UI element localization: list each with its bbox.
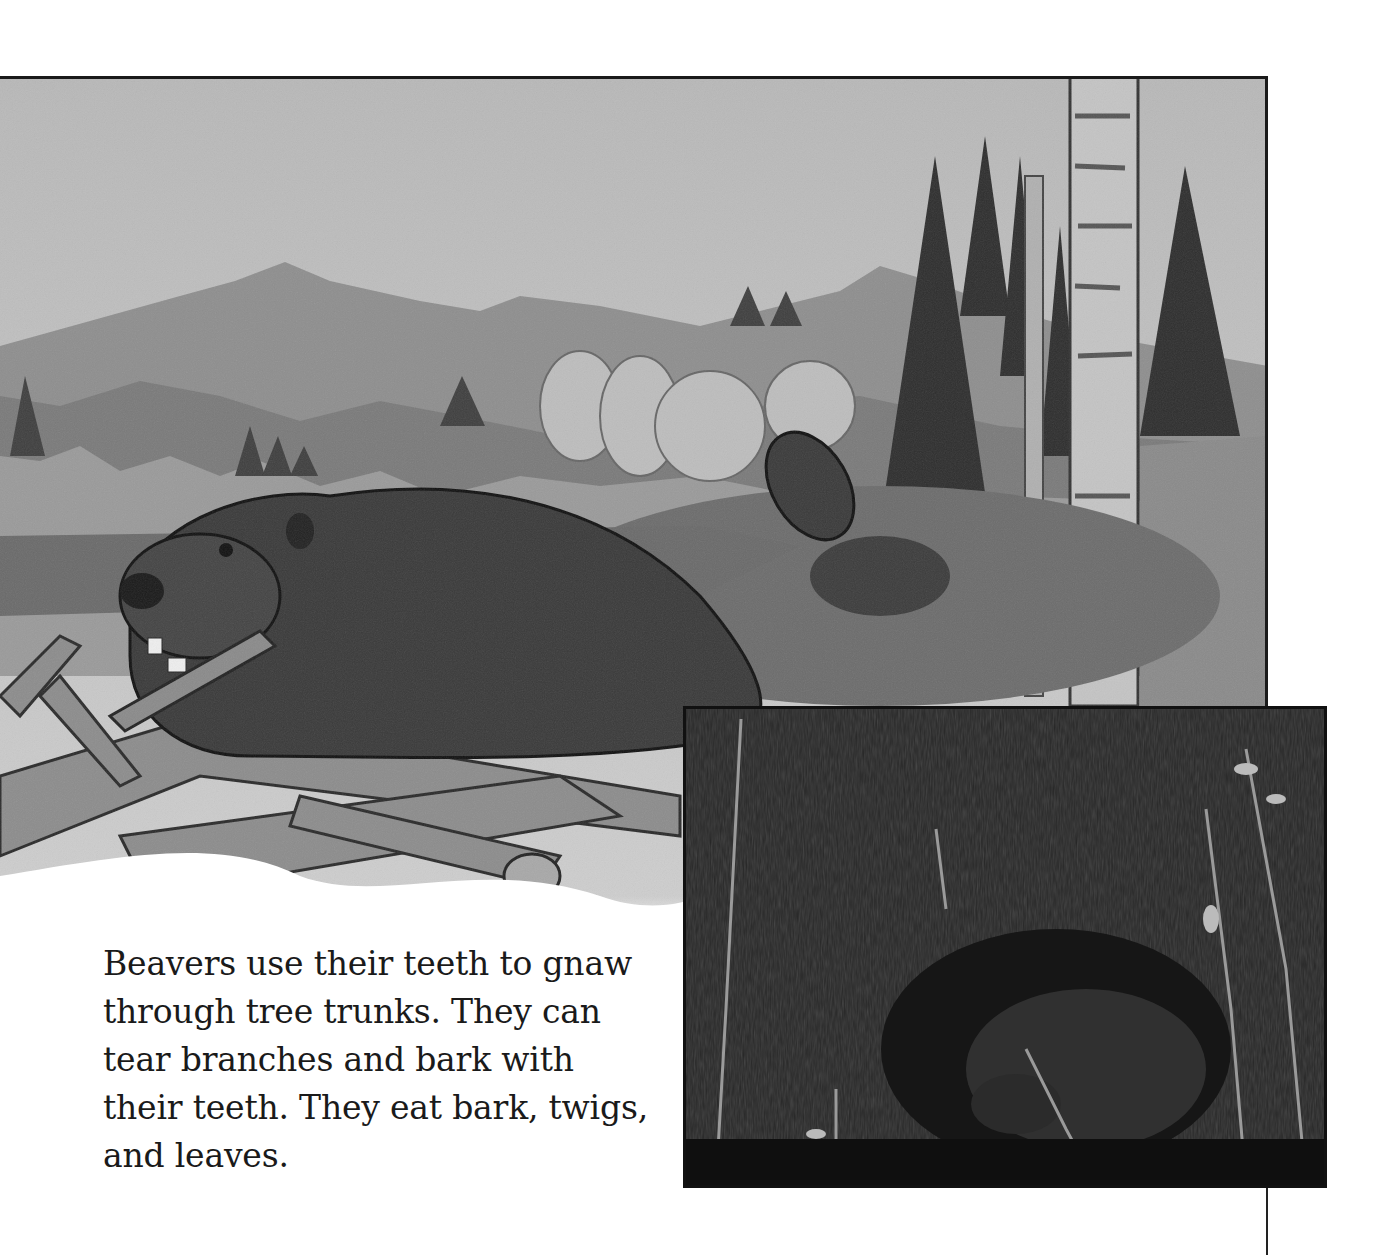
illustration-right-border bbox=[1265, 76, 1268, 706]
body-text-line: through tree trunks. They can bbox=[103, 988, 673, 1036]
beaver-photo bbox=[683, 706, 1327, 1188]
vertical-rule bbox=[1266, 1188, 1268, 1255]
book-page: Beavers use their teeth to gnaw through … bbox=[0, 0, 1396, 1255]
body-text-line: and leaves. bbox=[103, 1132, 673, 1180]
body-text-line: tear branches and bark with bbox=[103, 1036, 673, 1084]
body-text-line: their teeth. They eat bark, twigs, bbox=[103, 1084, 673, 1132]
body-text-line: Beavers use their teeth to gnaw bbox=[103, 940, 673, 988]
body-paragraph: Beavers use their teeth to gnaw through … bbox=[103, 940, 673, 1180]
photo-artwork bbox=[686, 709, 1324, 1185]
illustration-top-border bbox=[0, 76, 1268, 79]
